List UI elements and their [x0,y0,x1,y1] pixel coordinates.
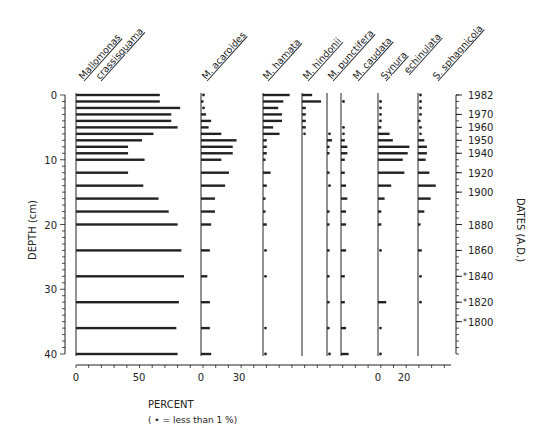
bar [263,159,266,161]
bar [263,94,290,96]
bar [341,146,347,148]
date-tick-label: 1960 [468,122,493,133]
column-mallomonas-crassisquama [76,93,184,356]
bar [201,172,229,174]
bar [76,126,178,128]
trace-dot [342,132,345,135]
bar [76,113,171,115]
date-tick-label: 1860 [468,245,493,256]
bar [76,249,181,251]
bar [302,107,306,109]
column-titles: MallomonascrassisquamaM. acaroidesM. ham… [76,23,484,82]
bar [302,126,306,128]
bar [418,146,427,148]
bar [263,197,266,199]
bar [201,113,206,115]
column-title: M. acaroides [199,29,247,81]
estimated-date-marker: * [463,298,467,307]
bar [327,146,330,148]
bar [76,353,178,355]
trace-dot [303,132,306,135]
bar [263,100,283,102]
bar [418,139,424,141]
bar [201,275,207,277]
bar [201,210,215,212]
bar [302,120,306,122]
bar [418,184,436,186]
bar [263,210,266,212]
bar [201,120,211,122]
bar [378,301,386,303]
column-m-caudata [341,93,349,356]
trace-dot [379,113,382,116]
bar [378,139,393,141]
x-axis-note: ( • = less than 1 %) [148,415,237,425]
trace-dot [328,184,331,187]
bar [418,159,426,161]
bar [327,327,330,329]
bar [201,223,211,225]
column-title: S. sphagnicola [430,23,484,82]
bar [263,133,280,135]
bar [378,184,391,186]
bar [263,120,282,122]
trace-dot [379,327,382,330]
bar [201,146,233,148]
date-tick-label: 1970 [468,109,493,120]
bar [76,159,145,161]
date-tick-label: 1880 [468,220,493,231]
depth-tick-label: 40 [44,349,57,360]
bar [378,210,381,212]
taxon-columns [76,93,436,356]
bar [263,223,267,225]
depth-tick-label: 10 [44,155,57,166]
bar [327,172,330,174]
trace-dot [264,327,267,330]
percent-tick-label: 0 [73,372,79,383]
bar [76,146,128,148]
bar [76,223,178,225]
trace-dot [264,275,267,278]
trace-dot [419,275,422,278]
bar [327,301,330,303]
depth-tick-label: 20 [44,220,57,231]
date-tick-label: 1840 [468,271,493,282]
bar [378,126,381,128]
trace-dot [419,126,422,129]
bar [341,301,345,303]
trace-dot [264,249,267,252]
trace-dot [419,301,422,304]
bar [201,152,233,154]
bar [201,327,210,329]
trace-dot [419,132,422,135]
bar [341,197,347,199]
bar [76,152,128,154]
bar [76,275,184,277]
bar [327,249,330,251]
bar [76,327,176,329]
trace-dot [342,100,345,103]
column-m-hindonii [302,93,321,356]
date-tick-label: 1800 [468,317,493,328]
bar [418,223,421,225]
trace-dot [328,353,331,356]
trace-dot [264,353,267,356]
bar [263,126,273,128]
bar [378,223,381,225]
percent-tick-label: 20 [398,372,411,383]
bar [201,301,210,303]
bar [76,197,159,199]
bar [201,126,209,128]
date-tick-label: 1940 [468,148,493,159]
date-tick-label: 1920 [468,168,493,179]
bar [341,210,346,212]
bar [341,275,345,277]
bar [327,210,330,212]
column-m-punctifera [327,93,332,356]
bar [327,139,332,141]
trace-dot [202,107,205,110]
bar [201,197,215,199]
bar [418,172,429,174]
bar [378,146,409,148]
percent-tick-label: 30 [233,372,246,383]
